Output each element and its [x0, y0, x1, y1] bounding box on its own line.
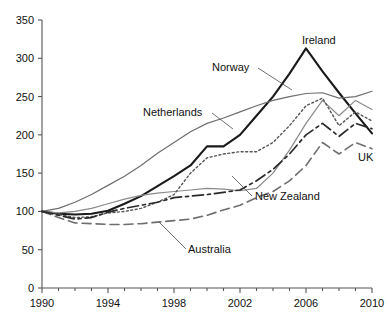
- series-line-uk: [42, 143, 372, 225]
- annotation-leaders: [159, 68, 292, 249]
- series-label-australia: Australia: [188, 243, 232, 255]
- series-label-norway: Norway: [212, 61, 250, 73]
- chart-canvas: 050100150200250300350 199019941998200220…: [0, 0, 390, 329]
- x-tick-label: 1990: [30, 297, 54, 309]
- y-axis-ticks: 050100150200250300350: [16, 14, 42, 294]
- x-axis-ticks: 199019941998200220062010: [30, 288, 384, 309]
- y-tick-label: 50: [22, 244, 34, 256]
- series-line-new-zealand: [42, 98, 372, 217]
- series-line-ireland: [42, 48, 372, 214]
- x-tick-label: 1998: [162, 297, 186, 309]
- y-tick-label: 350: [16, 14, 34, 26]
- series-group: [42, 48, 372, 224]
- series-label-new-zealand: New Zealand: [255, 190, 320, 202]
- x-tick-label: 1994: [96, 297, 120, 309]
- series-label-ireland: Ireland: [302, 34, 336, 46]
- series-line-australia: [42, 123, 372, 219]
- series-label-netherlands: Netherlands: [143, 106, 203, 118]
- series-labels: IrelandNorwayNetherlandsUKNew ZealandAus…: [143, 34, 374, 255]
- y-tick-label: 250: [16, 91, 34, 103]
- y-tick-label: 100: [16, 205, 34, 217]
- series-line-norway: [42, 91, 372, 211]
- x-tick-label: 2006: [294, 297, 318, 309]
- x-tick-label: 2002: [228, 297, 252, 309]
- x-tick-label: 2010: [360, 297, 384, 309]
- series-label-uk: UK: [358, 151, 374, 163]
- leader-line-australia: [159, 222, 186, 249]
- y-tick-label: 150: [16, 167, 34, 179]
- line-chart: 050100150200250300350 199019941998200220…: [0, 0, 390, 329]
- series-line-netherlands: [42, 100, 372, 213]
- y-tick-label: 0: [28, 282, 34, 294]
- leader-line-new-zealand: [232, 176, 252, 196]
- y-tick-label: 300: [16, 52, 34, 64]
- y-tick-label: 200: [16, 129, 34, 141]
